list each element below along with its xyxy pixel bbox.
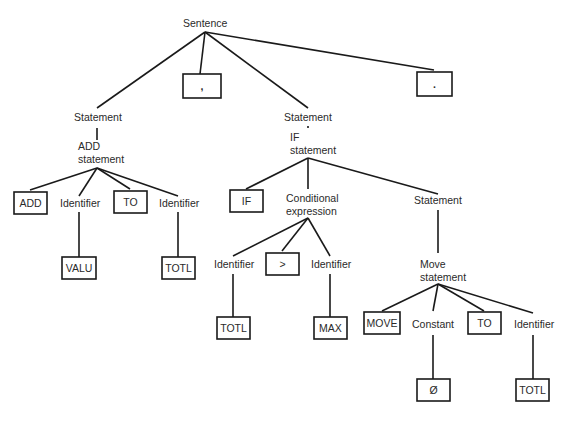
terminal-node-totl3: TOTL [516, 379, 549, 401]
terminal-label: TO [123, 196, 137, 208]
edge-movestmt-move_kw [382, 284, 438, 311]
nonterminal-node-id5: Identifier [514, 318, 555, 330]
nonterminal-node-condexpr: Conditionalexpression [286, 192, 339, 217]
nonterminal-label: ADD [78, 140, 101, 152]
edge-condexpr-id3 [233, 218, 308, 256]
terminal-label: TOTL [519, 384, 546, 396]
terminal-label: IF [242, 195, 251, 207]
edge-sentence-period [205, 32, 434, 70]
terminal-label: MAX [319, 322, 342, 334]
nonterminal-label: Sentence [183, 17, 228, 29]
edge-sentence-comma [200, 32, 205, 74]
terminal-node-max: MAX [314, 317, 347, 339]
terminal-label: TOTL [165, 262, 192, 274]
terminal-label: ADD [19, 197, 42, 209]
nonterminal-label: Constant [412, 318, 454, 330]
terminal-node-comma: , [183, 74, 221, 98]
terminal-node-gt: > [266, 253, 299, 275]
nonterminal-label: statement [420, 271, 466, 283]
nonterminal-node-addstmt: ADDstatement [78, 140, 124, 165]
edge-addstmt-add_kw [30, 168, 97, 190]
terminal-node-if_kw: IF [230, 190, 263, 212]
terminal-label: VALU [66, 262, 93, 274]
terminal-node-to2: TO [468, 312, 501, 334]
edge-ifstmt-if_kw [246, 158, 308, 189]
nonterminal-node-constant: Constant [412, 318, 454, 330]
edge-movestmt-id5 [438, 284, 533, 313]
parse-tree-diagram: SentenceStatement,Statement.ADDstatement… [0, 0, 567, 421]
nonterminal-label: Identifier [60, 197, 101, 209]
nonterminal-label: Identifier [159, 197, 200, 209]
edge-condexpr-gt [282, 218, 308, 251]
nonterminal-node-stmt3: Statement [414, 194, 462, 206]
nonterminal-label: Move [420, 258, 446, 270]
terminal-node-move_kw: MOVE [364, 312, 400, 334]
terminal-node-to1: TO [114, 191, 147, 213]
nonterminal-node-id4: Identifier [311, 258, 352, 270]
nonterminal-label: Statement [284, 111, 332, 123]
terminal-node-valu: VALU [62, 257, 96, 279]
terminal-node-period: . [417, 72, 452, 96]
nonterminal-node-id1: Identifier [60, 197, 101, 209]
edge-movestmt-to2 [438, 284, 484, 311]
tree-nodes: SentenceStatement,Statement.ADDstatement… [14, 17, 555, 401]
nonterminal-label: Statement [74, 111, 122, 123]
nonterminal-node-stmt2: Statement [284, 111, 332, 123]
nonterminal-label: IF [290, 131, 299, 143]
nonterminal-node-ifstmt: IFstatement [290, 131, 336, 156]
nonterminal-label: Identifier [514, 318, 555, 330]
nonterminal-label: statement [290, 144, 336, 156]
terminal-node-add_kw: ADD [14, 192, 47, 214]
nonterminal-label: Statement [414, 194, 462, 206]
nonterminal-label: Identifier [214, 258, 255, 270]
nonterminal-node-stmt1: Statement [74, 111, 122, 123]
nonterminal-node-id2: Identifier [159, 197, 200, 209]
nonterminal-node-id3: Identifier [214, 258, 255, 270]
terminal-node-zero: Ø [417, 379, 450, 401]
edge-ifstmt-stmt3 [308, 158, 438, 194]
terminal-label: Ø [429, 384, 437, 396]
terminal-label: . [433, 78, 436, 90]
terminal-node-totl1: TOTL [162, 257, 195, 279]
nonterminal-label: Conditional [286, 192, 339, 204]
terminal-node-totl2: TOTL [217, 317, 250, 339]
terminal-label: , [201, 80, 204, 92]
nonterminal-node-movestmt: Movestatement [420, 258, 466, 283]
nonterminal-node-sentence: Sentence [183, 17, 228, 29]
edge-condexpr-id4 [308, 218, 330, 256]
terminal-label: > [279, 258, 285, 270]
nonterminal-label: expression [286, 205, 337, 217]
terminal-label: TOTL [220, 322, 247, 334]
nonterminal-label: Identifier [311, 258, 352, 270]
edge-movestmt-constant [433, 284, 438, 311]
terminal-label: MOVE [367, 317, 398, 329]
nonterminal-label: statement [78, 153, 124, 165]
terminal-label: TO [477, 317, 491, 329]
